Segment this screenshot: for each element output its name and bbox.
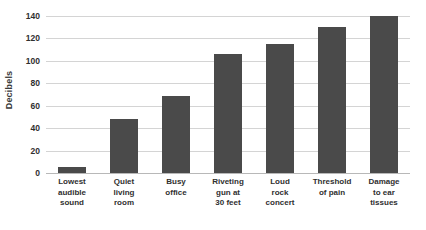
x-tick-label-line: room	[97, 198, 151, 209]
x-tick-label-line: Damage	[357, 177, 411, 188]
bar	[162, 96, 190, 173]
bar	[370, 16, 398, 173]
y-tick-label: 0	[35, 168, 40, 178]
y-tick-label: 100	[26, 56, 40, 66]
decibels-bar-chart: Decibels 020406080100120140 Lowestaudibl…	[0, 0, 426, 230]
x-tick-label-line: Lowest	[45, 177, 99, 188]
x-tick-label: Damageto eartissues	[357, 177, 411, 209]
x-tick-label-line: gun at	[201, 188, 255, 199]
bar	[58, 167, 86, 173]
x-tick-label-line: sound	[45, 198, 99, 209]
bar	[318, 27, 346, 173]
y-tick-label: 40	[31, 123, 40, 133]
y-tick-label: 20	[31, 146, 40, 156]
plot-area: 020406080100120140	[46, 16, 410, 173]
bar	[214, 54, 242, 173]
y-tick-label: 140	[26, 11, 40, 21]
x-tick-label-line: Threshold	[305, 177, 359, 188]
y-axis-title-text: Decibels	[4, 71, 14, 110]
x-tick-label: Lowestaudiblesound	[45, 177, 99, 209]
y-tick-label: 120	[26, 33, 40, 43]
x-axis-baseline: 0	[46, 173, 410, 174]
x-tick-label-line: of pain	[305, 188, 359, 199]
x-tick-label-line: living	[97, 188, 151, 199]
x-tick-label-line: audible	[45, 188, 99, 199]
x-tick-label-line: rock	[253, 188, 307, 199]
x-tick-label-line: Riveting	[201, 177, 255, 188]
x-tick-label: Loudrockconcert	[253, 177, 307, 209]
x-tick-label: Quietlivingroom	[97, 177, 151, 209]
bars	[46, 16, 410, 173]
x-tick-label-line: tissues	[357, 198, 411, 209]
x-tick-label-line: to ear	[357, 188, 411, 199]
x-tick-label-line: Busy	[149, 177, 203, 188]
x-tick-label-line: Quiet	[97, 177, 151, 188]
x-tick-label-line: Loud	[253, 177, 307, 188]
y-tick-label: 80	[31, 78, 40, 88]
x-tick-label: Rivetinggun at30 feet	[201, 177, 255, 209]
x-tick-label: Thresholdof pain	[305, 177, 359, 198]
bar	[266, 44, 294, 173]
y-axis-title: Decibels	[0, 0, 18, 180]
x-axis-labels: LowestaudiblesoundQuietlivingroomBusyoff…	[46, 177, 410, 227]
y-tick-label: 60	[31, 101, 40, 111]
x-tick-label-line: office	[149, 188, 203, 199]
bar	[110, 119, 138, 173]
x-tick-label: Busyoffice	[149, 177, 203, 198]
x-tick-label-line: 30 feet	[201, 198, 255, 209]
x-tick-label-line: concert	[253, 198, 307, 209]
